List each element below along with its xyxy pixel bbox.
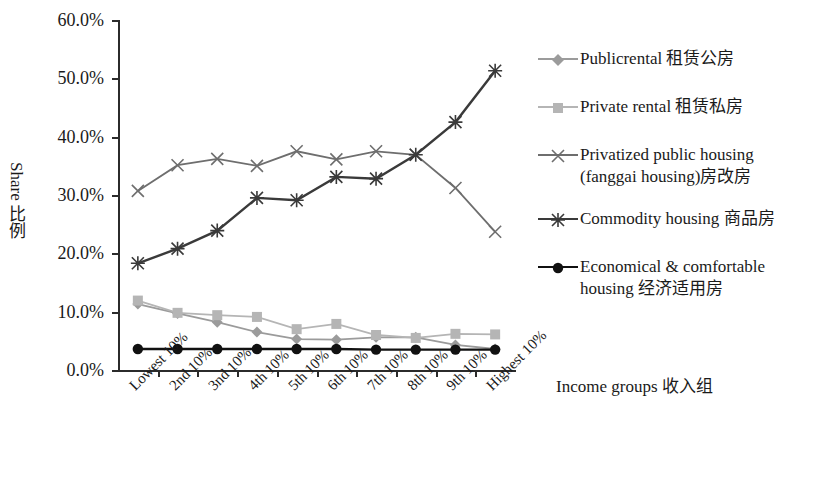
asterisk-marker (536, 208, 580, 230)
legend-item-label: Privatized public housing(fanggai housin… (580, 144, 754, 188)
y-tick-mark (112, 137, 118, 139)
x-marker (536, 144, 580, 166)
y-tick-mark (112, 20, 118, 22)
legend-item-label: Private rental 租赁私房 (580, 96, 743, 118)
y-tick-label: 60.0% (26, 11, 104, 29)
circle-marker (536, 256, 580, 278)
series-x (132, 145, 501, 238)
y-tick-label: 0.0% (26, 361, 104, 379)
legend-item-label: Economical & comfortablehousing 经济适用房 (580, 256, 765, 300)
legend-item[interactable]: Privatized public housing(fanggai housin… (536, 144, 754, 188)
y-tick-label: 10.0% (26, 303, 104, 321)
y-tick-label: 40.0% (26, 128, 104, 146)
square-marker (536, 96, 580, 118)
y-tick-label: 50.0% (26, 69, 104, 87)
y-tick-mark (112, 78, 118, 80)
series-asterisk (131, 64, 502, 271)
legend-item[interactable]: Commodity housing 商品房 (536, 208, 775, 230)
y-tick-label: 30.0% (26, 186, 104, 204)
y-axis-tick-labels: 60.0%50.0%40.0%30.0%20.0%10.0%0.0% (24, 0, 104, 478)
legend-item[interactable]: Publicrental 租赁公房 (536, 48, 734, 70)
legend-item-label: Commodity housing 商品房 (580, 208, 775, 230)
y-tick-mark (112, 370, 118, 372)
plot-area (118, 20, 515, 370)
chart-figure: Share 比例 60.0%50.0%40.0%30.0%20.0%10.0%0… (0, 0, 824, 478)
legend-item-label: Publicrental 租赁公房 (580, 48, 734, 70)
y-tick-mark (112, 253, 118, 255)
y-tick-mark (112, 195, 118, 197)
x-axis-title: Income groups 收入组 (556, 372, 713, 397)
legend-item[interactable]: Private rental 租赁私房 (536, 96, 743, 118)
y-tick-label: 20.0% (26, 244, 104, 262)
diamond-marker (536, 48, 580, 70)
y-axis-line (118, 20, 120, 371)
legend-item[interactable]: Economical & comfortablehousing 经济适用房 (536, 256, 765, 300)
series-layer (118, 20, 515, 371)
y-tick-mark (112, 312, 118, 314)
series-square (133, 296, 500, 343)
